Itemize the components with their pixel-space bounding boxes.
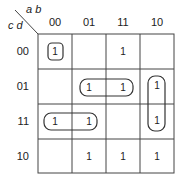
karnaugh-map: a b c d 00 01 11 10 00 01 11 10 1 1 1 1 … [0,0,180,181]
cell-cd10-ab11: 1 [120,151,126,162]
cell-cd10-ab01: 1 [86,151,92,162]
cell-cd00-ab11: 1 [120,46,126,57]
cell-cd10-ab10: 1 [154,151,160,162]
cell-cd01-ab01: 1 [86,82,92,93]
cell-cd01-ab10: 1 [154,80,160,91]
cell-cd11-ab00: 1 [52,116,58,127]
col-header-01: 01 [83,16,95,28]
col-header-10: 10 [151,16,163,28]
row-header-01: 01 [17,80,29,92]
row-variables-label: c d [8,19,24,31]
col-header-00: 00 [49,16,61,28]
row-header-00: 00 [17,45,29,57]
row-header-11: 11 [18,115,29,127]
col-header-11: 11 [117,16,128,28]
cell-cd11-ab10: 1 [154,115,160,126]
cell-cd01-ab11: 1 [120,82,126,93]
cell-cd00-ab00: 1 [52,46,58,57]
row-header-10: 10 [17,150,29,162]
cell-cd11-ab01: 1 [86,116,92,127]
col-variables-label: a b [26,3,41,15]
